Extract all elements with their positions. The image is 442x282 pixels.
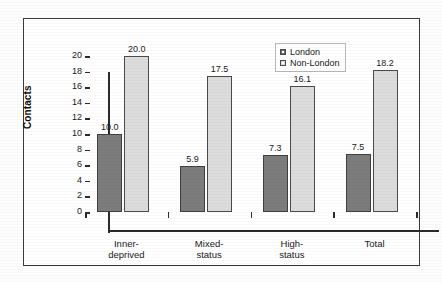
x-tick-mark — [168, 212, 170, 218]
x-tick-mark — [333, 212, 335, 218]
legend-item-london: London — [280, 46, 340, 57]
y-tick-mark — [85, 181, 90, 183]
bar-value-label: 16.1 — [284, 74, 321, 84]
y-tick-label: 12 — [72, 112, 82, 122]
y-tick-mark — [85, 196, 90, 198]
category-label-total: Total — [327, 238, 422, 249]
y-tick-mark — [85, 87, 90, 89]
y-axis-title: Contacts — [22, 85, 33, 129]
chart-legend: London Non-London — [275, 43, 346, 72]
category-label-line: status — [245, 249, 340, 260]
bar-london-mixed-status — [180, 166, 205, 212]
bar-value-label: 20.0 — [118, 44, 155, 54]
bar-london-total — [346, 154, 371, 213]
bar-value-label: 18.2 — [367, 58, 404, 68]
x-axis-line — [108, 230, 439, 232]
figure-page: London Non-London Contacts 0246810121416… — [0, 0, 442, 282]
y-tick-mark — [85, 134, 90, 136]
bar-london-high-status — [263, 155, 288, 212]
category-label-line: status — [162, 249, 257, 260]
bar-value-label: 5.9 — [174, 154, 211, 164]
x-tick-mark — [416, 212, 418, 218]
y-tick-mark — [85, 56, 90, 58]
bar-london-inner-deprived — [97, 134, 122, 212]
category-label-line: Inner- — [79, 238, 174, 249]
y-tick-mark — [85, 103, 90, 105]
legend-label-non-london: Non-London — [290, 58, 340, 68]
x-tick-mark — [85, 212, 87, 218]
category-label-inner-deprived: Inner-deprived — [79, 238, 174, 260]
bar-value-label: 17.5 — [201, 64, 238, 74]
bar-non-london-mixed-status — [207, 76, 232, 213]
bar-value-label: 7.5 — [340, 142, 377, 152]
bar-non-london-inner-deprived — [124, 56, 149, 212]
y-tick-label: 20 — [72, 50, 82, 60]
bar-value-label: 7.3 — [257, 143, 294, 153]
legend-item-non-london: Non-London — [280, 57, 340, 68]
category-label-line: deprived — [79, 249, 174, 260]
y-tick-mark — [85, 150, 90, 152]
y-tick-label: 6 — [77, 159, 82, 169]
legend-swatch-non-london-icon — [280, 60, 286, 66]
legend-label-london: London — [290, 47, 320, 57]
y-tick-label: 16 — [72, 81, 82, 91]
category-label-line: Mixed- — [162, 238, 257, 249]
y-tick-label: 14 — [72, 97, 82, 107]
y-tick-label: 18 — [72, 66, 82, 76]
category-label-line: High- — [245, 238, 340, 249]
figure-frame: London Non-London Contacts 0246810121416… — [23, 18, 420, 266]
y-tick-mark — [85, 118, 90, 120]
legend-swatch-london-icon — [280, 49, 286, 55]
y-tick-label: 2 — [77, 190, 82, 200]
category-label-mixed-status: Mixed-status — [162, 238, 257, 260]
y-tick-label: 8 — [77, 144, 82, 154]
y-tick-label: 0 — [77, 206, 82, 216]
x-tick-mark — [251, 212, 253, 218]
y-tick-label: 10 — [72, 128, 82, 138]
y-tick-label: 4 — [77, 175, 82, 185]
y-tick-mark — [85, 165, 90, 167]
category-label-high-status: High-status — [245, 238, 340, 260]
bar-non-london-high-status — [290, 86, 315, 212]
bar-non-london-total — [373, 70, 398, 212]
y-tick-mark — [85, 72, 90, 74]
bar-value-label: 10.0 — [91, 122, 128, 132]
category-label-line: Total — [327, 238, 422, 249]
